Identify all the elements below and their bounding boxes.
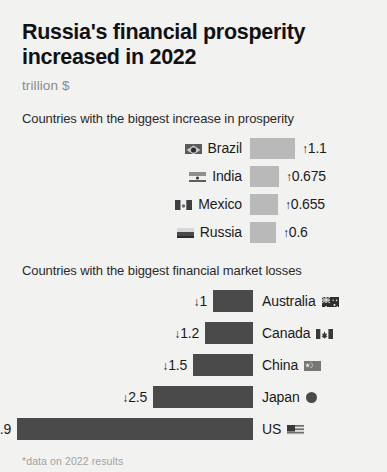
loss-row-label: Australia <box>253 293 339 309</box>
loss-row-label: Canada <box>253 325 333 341</box>
canada-flag-icon <box>316 327 333 339</box>
brazil-flag-icon <box>185 142 202 154</box>
loss-country-name: China <box>262 357 298 373</box>
gain-bar <box>250 166 279 187</box>
footnote-text: *data on 2022 results <box>22 455 365 467</box>
loss-value-label: ↓5.9 <box>0 421 11 437</box>
gain-value: 0.675 <box>292 168 326 184</box>
gain-country-name: Brazil <box>208 140 242 156</box>
loss-country-name: US <box>262 421 281 437</box>
gains-bar-group: Brazil ↑1.1 India ↑0.675 <box>22 137 365 243</box>
loss-bar-wrap: ↓1 <box>22 290 253 312</box>
loss-country-name: Japan <box>262 389 300 405</box>
gain-value: 0.655 <box>291 196 325 212</box>
loss-country-name: Canada <box>262 325 310 341</box>
loss-country-name: Australia <box>262 293 316 309</box>
gain-value: 0.6 <box>289 224 308 240</box>
loss-bar <box>213 290 253 312</box>
loss-row: ↓1 Australia <box>22 289 365 313</box>
gains-section-caption: Countries with the biggest increase in p… <box>22 111 365 126</box>
loss-bar-wrap: ↓1.2 <box>22 322 253 344</box>
loss-bar <box>193 354 253 376</box>
gain-row: Brazil ↑1.1 <box>22 137 365 159</box>
gain-country-name: Mexico <box>198 196 242 212</box>
gain-row: Mexico ↑0.655 <box>22 193 365 215</box>
losses-bar-group: ↓1 Australia <box>22 289 365 441</box>
gain-country-name: Russia <box>200 224 242 240</box>
loss-value: 1.2 <box>180 325 199 341</box>
loss-bar-wrap: ↓2.5 <box>22 386 253 408</box>
loss-value: 1 <box>199 293 207 309</box>
loss-value: 1.5 <box>168 357 187 373</box>
loss-bar-wrap: ↓5.9 <box>22 418 253 440</box>
china-flag-icon <box>304 359 321 371</box>
loss-value-label: ↓1.2 <box>174 325 199 341</box>
loss-row-label: China <box>253 357 321 373</box>
loss-row-label: Japan <box>253 389 317 405</box>
japan-flag-icon <box>306 392 317 403</box>
loss-bar <box>153 386 253 408</box>
gain-value-label: ↑1.1 <box>302 140 327 156</box>
mexico-flag-icon <box>175 198 192 210</box>
chart-unit-subtitle: trillion $ <box>22 78 365 93</box>
gain-country-name: India <box>212 168 242 184</box>
gain-value-label: ↑0.675 <box>286 168 326 184</box>
gain-value-label: ↑0.6 <box>283 224 308 240</box>
infographic-page: Russia's financial prosperity increased … <box>0 0 387 472</box>
gain-row-label: India <box>22 168 250 184</box>
gain-value-label: ↑0.655 <box>285 196 325 212</box>
loss-row: ↓5.9 US <box>22 417 365 441</box>
gain-bar <box>250 194 278 215</box>
loss-value: 2.5 <box>128 389 147 405</box>
loss-row: ↓1.5 China <box>22 353 365 377</box>
loss-value-label: ↓2.5 <box>122 389 147 405</box>
gain-bar <box>250 222 276 243</box>
losses-section-caption: Countries with the biggest financial mar… <box>22 263 365 278</box>
loss-value: 5.9 <box>0 421 11 437</box>
gain-row: Russia ↑0.6 <box>22 221 365 243</box>
loss-bar <box>17 418 253 440</box>
australia-flag-icon <box>322 295 339 307</box>
loss-row-label: US <box>253 421 304 437</box>
gain-row-label: Brazil <box>22 140 250 156</box>
us-flag-icon <box>287 423 304 435</box>
loss-row: ↓1.2 Canada <box>22 321 365 345</box>
loss-value-label: ↓1 <box>194 293 207 309</box>
loss-bar-wrap: ↓1.5 <box>22 354 253 376</box>
loss-row: ↓2.5 Japan <box>22 385 365 409</box>
gain-row: India ↑0.675 <box>22 165 365 187</box>
loss-value-label: ↓1.5 <box>162 357 187 373</box>
gain-bar <box>250 138 295 159</box>
russia-flag-icon <box>177 226 194 238</box>
gain-row-label: Russia <box>22 224 250 240</box>
gain-row-label: Mexico <box>22 196 250 212</box>
gain-value: 1.1 <box>308 140 327 156</box>
page-title: Russia's financial prosperity increased … <box>22 20 342 70</box>
loss-bar <box>205 322 253 344</box>
india-flag-icon <box>189 170 206 182</box>
